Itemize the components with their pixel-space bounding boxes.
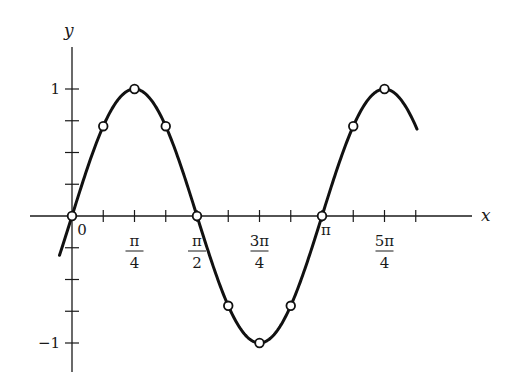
data-point-marker [68, 212, 77, 221]
x-tick-fraction-label: 5π4 [375, 232, 395, 272]
data-point-marker [286, 301, 295, 310]
svg-text:2: 2 [192, 254, 202, 272]
svg-text:4: 4 [255, 254, 265, 272]
svg-text:π: π [192, 232, 202, 250]
data-point-marker [130, 85, 139, 94]
data-point-marker [349, 122, 358, 131]
x-tick-label: π [321, 221, 331, 239]
sine-chart: xy1−10π4π23π4π5π4 [0, 0, 516, 392]
data-point-marker [318, 212, 327, 221]
axis-labels: xy1−10π4π23π4π5π4 [38, 20, 491, 352]
svg-text:3π: 3π [250, 232, 270, 250]
x-tick-label: 0 [77, 221, 87, 239]
y-axis-label: y [63, 20, 74, 40]
y-tick-label: 1 [50, 80, 60, 98]
axes [30, 47, 472, 372]
data-point-marker [99, 122, 108, 131]
data-point-marker [380, 85, 389, 94]
svg-text:4: 4 [130, 254, 140, 272]
y-tick-label: −1 [38, 334, 60, 352]
data-point-marker [161, 122, 170, 131]
svg-text:4: 4 [380, 254, 390, 272]
svg-text:5π: 5π [375, 232, 395, 250]
data-point-marker [193, 212, 202, 221]
x-tick-fraction-label: π4 [126, 232, 144, 272]
svg-text:π: π [130, 232, 140, 250]
data-point-marker [224, 301, 233, 310]
x-axis-label: x [481, 205, 491, 225]
data-point-marker [255, 339, 264, 348]
x-tick-fraction-label: 3π4 [250, 232, 270, 272]
